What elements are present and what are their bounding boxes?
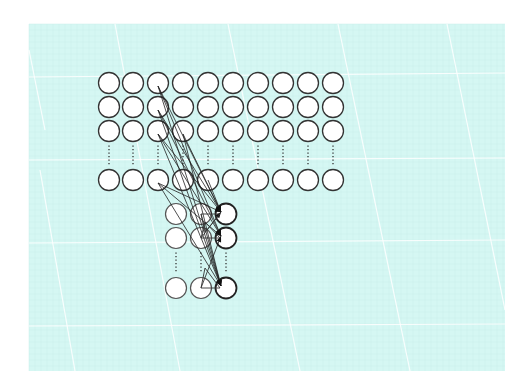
neuron-node xyxy=(223,73,244,94)
neuron-node xyxy=(248,73,269,94)
neuron-node xyxy=(99,73,120,94)
neuron-node xyxy=(248,121,269,142)
neuron-node xyxy=(248,97,269,118)
neuron-node xyxy=(148,73,169,94)
neuron-node xyxy=(298,121,319,142)
neuron-node xyxy=(166,204,187,225)
neuron-node xyxy=(123,73,144,94)
neuron-node xyxy=(223,170,244,191)
neuron-node xyxy=(273,170,294,191)
neuron-node xyxy=(323,97,344,118)
neuron-node xyxy=(123,170,144,191)
neuron-node xyxy=(198,121,219,142)
neuron-node xyxy=(323,121,344,142)
neuron-node xyxy=(273,97,294,118)
neuron-node xyxy=(166,228,187,249)
network-diagram xyxy=(0,0,529,379)
neuron-node xyxy=(298,73,319,94)
neuron-node xyxy=(223,97,244,118)
neuron-node xyxy=(173,97,194,118)
neuron-node xyxy=(223,121,244,142)
neuron-node xyxy=(198,97,219,118)
neuron-node xyxy=(123,121,144,142)
neuron-node xyxy=(298,97,319,118)
neuron-node xyxy=(166,278,187,299)
neuron-node xyxy=(148,97,169,118)
neuron-node xyxy=(148,170,169,191)
neuron-node xyxy=(273,121,294,142)
neuron-node xyxy=(99,97,120,118)
neuron-node xyxy=(198,73,219,94)
neuron-node xyxy=(323,170,344,191)
neuron-node xyxy=(248,170,269,191)
neuron-node xyxy=(173,73,194,94)
neuron-node xyxy=(99,121,120,142)
neuron-node xyxy=(123,97,144,118)
neuron-node xyxy=(298,170,319,191)
neuron-node xyxy=(273,73,294,94)
neuron-node xyxy=(323,73,344,94)
neuron-node xyxy=(99,170,120,191)
